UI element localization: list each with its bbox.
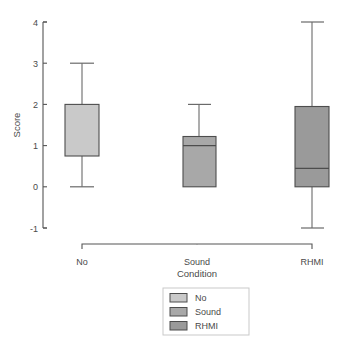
box-no	[65, 104, 99, 156]
y-tick-label-1: 1	[33, 141, 38, 151]
legend-label-sound: Sound	[195, 307, 221, 317]
legend-swatch-sound	[170, 308, 187, 317]
y-tick-label-3: 3	[33, 59, 38, 69]
x-label-no: No	[76, 257, 88, 267]
y-axis-bracket	[43, 22, 47, 228]
legend-item-sound[interactable]: Sound	[170, 307, 221, 317]
x-axis-title: Condition	[177, 268, 217, 279]
chart-canvas: 4 3 2 1 0 -1 Score	[0, 0, 352, 341]
y-tick-label-4: 4	[33, 18, 38, 28]
y-tick-label-2: 2	[33, 100, 38, 110]
box-group-no	[65, 63, 99, 187]
y-tick-label-0: 0	[33, 182, 38, 192]
boxplot-figure: 4 3 2 1 0 -1 Score	[0, 0, 352, 341]
x-axis-bracket	[82, 244, 312, 249]
x-label-sound: Sound	[184, 257, 210, 267]
legend-label-no: No	[195, 293, 207, 303]
y-axis: 4 3 2 1 0 -1 Score	[11, 18, 47, 234]
legend-swatch-rhmi	[170, 322, 187, 331]
legend-label-rhmi: RHMI	[195, 321, 218, 331]
legend-swatch-no	[170, 294, 187, 303]
x-axis: No Sound RHMI Condition	[76, 244, 323, 279]
x-label-rhmi: RHMI	[301, 257, 324, 267]
y-tick-label-minus1: -1	[30, 224, 38, 234]
box-group-rhmi	[295, 22, 329, 228]
y-axis-title: Score	[11, 113, 22, 138]
box-sound	[183, 137, 216, 187]
box-group-sound	[183, 104, 216, 186]
legend: No Sound RHMI	[163, 288, 249, 335]
box-rhmi	[295, 107, 329, 187]
